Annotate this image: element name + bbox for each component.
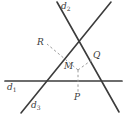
line-label-d1: d1 xyxy=(7,83,17,92)
point-label-q: Q xyxy=(93,51,100,60)
line-label-d3: d3 xyxy=(31,101,41,110)
point-label-r: R xyxy=(37,38,44,47)
figure-canvas xyxy=(0,0,128,120)
point-label-p: P xyxy=(74,93,80,102)
point-label-m: M xyxy=(64,62,73,71)
dashed-segment-m-q xyxy=(78,59,93,70)
line-label-d2: d2 xyxy=(61,2,71,11)
geometry-figure: d1 d2 d3 R Q M P xyxy=(0,0,128,120)
